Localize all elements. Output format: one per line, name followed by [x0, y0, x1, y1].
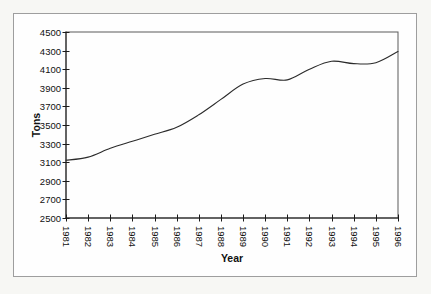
y-tick-label: 3500 [40, 120, 61, 131]
x-tick-label: 1983 [105, 226, 116, 247]
x-tick-label: 1996 [393, 226, 404, 247]
x-tick-label: 1991 [282, 226, 293, 247]
y-tick-label: 2500 [40, 213, 61, 224]
x-tick-label: 1987 [194, 226, 205, 247]
x-tick-label: 1985 [150, 226, 161, 247]
y-tick-label: 3900 [40, 83, 61, 94]
x-tick-label: 1992 [304, 226, 315, 247]
x-tick-label: 1988 [216, 226, 227, 247]
x-tick-label: 1990 [260, 226, 271, 247]
y-tick-label: 3700 [40, 101, 61, 112]
y-tick-label: 3300 [40, 139, 61, 150]
y-tick-label: 4500 [40, 27, 61, 38]
x-tick-label: 1981 [61, 226, 72, 247]
y-axis-title: Tons [30, 113, 42, 137]
x-tick-label: 1989 [238, 226, 249, 247]
x-tick-label: 1994 [349, 226, 360, 247]
x-axis-title: Year [221, 252, 243, 264]
y-tick-label: 2700 [40, 194, 61, 205]
plot-border [66, 32, 398, 218]
x-tick-label: 1995 [371, 226, 382, 247]
x-tick-label: 1984 [127, 226, 138, 247]
x-tick-label: 1993 [327, 226, 338, 247]
x-tick-label: 1982 [83, 226, 94, 247]
y-tick-label: 4100 [40, 64, 61, 75]
y-tick-label: 4300 [40, 46, 61, 57]
y-tick-label: 2900 [40, 176, 61, 187]
chart-figure: 4500430041003900370035003300310029002700… [0, 0, 431, 294]
x-tick-label: 1986 [172, 226, 183, 247]
line-chart: 4500430041003900370035003300310029002700… [0, 0, 431, 294]
y-tick-label: 3100 [40, 157, 61, 168]
